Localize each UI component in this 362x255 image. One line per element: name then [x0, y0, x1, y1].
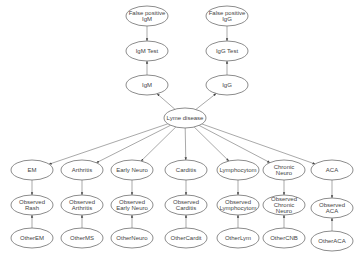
node-obs-carditis[interactable]: ObservedCarditis — [165, 195, 207, 215]
edge-line — [202, 124, 315, 164]
node-label: OtherCNB — [270, 235, 298, 241]
node-obs-chronic-neuro[interactable]: ObservedChronicNeuro — [263, 195, 305, 215]
node-lymphocytom[interactable]: Lymphocytom — [217, 160, 259, 180]
node-label: Observed — [19, 199, 45, 205]
node-label: Carditis — [176, 205, 196, 211]
node-obs-aca[interactable]: ObservedACA — [311, 198, 353, 218]
node-igg-test[interactable]: IgG Test — [206, 41, 248, 61]
node-label: Observed — [173, 199, 199, 205]
edge-line — [185, 128, 186, 160]
node-obs-arthritis[interactable]: ObservedArthritis — [61, 195, 103, 215]
node-label: Lymphocytom — [219, 205, 256, 211]
node-label: Lymphocytom — [219, 167, 256, 173]
node-lyme[interactable]: Lyme disease — [164, 108, 206, 128]
node-label: OtherMS — [70, 235, 94, 241]
edge-lyme-to-igg — [196, 94, 216, 110]
node-igg[interactable]: IgG — [206, 75, 248, 95]
node-label: Observed — [225, 199, 251, 205]
node-label: IgG Test — [216, 48, 239, 54]
node-arthritis[interactable]: Arthritis — [61, 160, 103, 180]
node-early-neuro[interactable]: Early Neuro — [111, 160, 153, 180]
node-label: Early Neuro — [116, 205, 148, 211]
edge-line — [49, 124, 168, 164]
node-label: Rash — [25, 205, 39, 211]
node-label: IgM Test — [136, 48, 159, 54]
node-label: OtherNeuro — [116, 235, 148, 241]
node-label: Chronic — [274, 164, 295, 170]
edge-line — [196, 94, 216, 110]
edge-line — [141, 127, 176, 161]
node-other-ms[interactable]: OtherMS — [61, 228, 103, 248]
node-label: Arthritis — [72, 167, 92, 173]
node-label: OtherCardit — [170, 235, 201, 241]
node-label: OtherACA — [318, 238, 345, 244]
node-label: Observed — [319, 202, 345, 208]
node-igm-test[interactable]: IgM Test — [126, 41, 168, 61]
node-label: ACA — [326, 167, 338, 173]
node-carditis[interactable]: Carditis — [165, 160, 207, 180]
node-aca[interactable]: ACA — [311, 160, 353, 180]
node-label: False positive — [129, 10, 166, 16]
node-label: OtherEM — [20, 235, 44, 241]
node-label: Chronic — [274, 202, 295, 208]
node-other-cardit[interactable]: OtherCardit — [165, 228, 207, 248]
edge-line — [157, 94, 175, 109]
node-label: Neuro — [276, 170, 293, 176]
node-label: Arthritis — [72, 205, 92, 211]
node-other-aca[interactable]: OtherACA — [311, 231, 353, 251]
node-other-neuro[interactable]: OtherNeuro — [111, 228, 153, 248]
node-label: IgM — [142, 82, 152, 88]
node-label: Observed — [69, 199, 95, 205]
node-label: False positive — [209, 10, 246, 16]
node-em[interactable]: EM — [11, 160, 53, 180]
node-label: Observed — [271, 196, 297, 202]
node-label: IgG — [222, 16, 232, 22]
edge-lyme-to-carditis — [185, 128, 186, 160]
bayesian-network-diagram: False positiveIgMIgM TestIgMFalse positi… — [0, 0, 362, 255]
node-igm[interactable]: IgM — [126, 75, 168, 95]
node-label: Neuro — [276, 208, 293, 214]
node-layer: False positiveIgMIgM TestIgMFalse positi… — [11, 6, 353, 251]
node-label: Early Neuro — [116, 167, 148, 173]
node-label: Carditis — [176, 167, 196, 173]
edge-lyme-to-em — [49, 124, 168, 164]
edge-lyme-to-igm — [157, 94, 175, 109]
node-label: IgG — [222, 82, 232, 88]
node-other-cnb[interactable]: OtherCNB — [263, 228, 305, 248]
node-label: IgM — [142, 16, 152, 22]
node-obs-early-neuro[interactable]: ObservedEarly Neuro — [111, 195, 153, 215]
node-chronic-neuro[interactable]: ChronicNeuro — [263, 160, 305, 180]
node-label: EM — [28, 167, 37, 173]
node-label: OtherLym — [225, 235, 251, 241]
node-fp-igg[interactable]: False positiveIgG — [206, 6, 248, 26]
edge-lyme-to-arthritis — [96, 125, 170, 162]
node-label: ACA — [326, 208, 338, 214]
node-obs-rash[interactable]: ObservedRash — [11, 195, 53, 215]
edge-lyme-to-aca — [202, 124, 315, 164]
node-other-em[interactable]: OtherEM — [11, 228, 53, 248]
node-label: Lyme disease — [167, 115, 204, 121]
edge-lyme-to-early_neuro — [141, 127, 176, 161]
edge-line — [96, 125, 170, 162]
node-fp-igm[interactable]: False positiveIgM — [126, 6, 168, 26]
node-label: Observed — [119, 199, 145, 205]
node-other-lym[interactable]: OtherLym — [217, 228, 259, 248]
node-obs-lymphocytom[interactable]: ObservedLymphocytom — [217, 195, 259, 215]
